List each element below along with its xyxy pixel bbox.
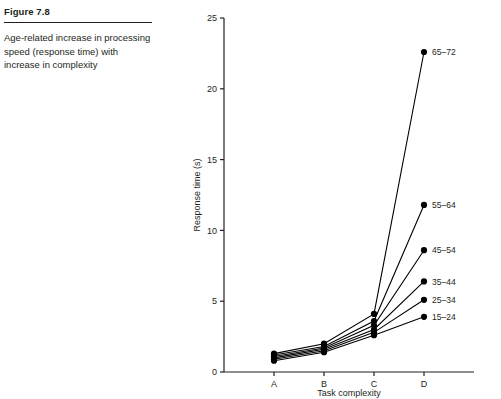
data-point-marker bbox=[271, 358, 277, 364]
series-labels-group: 65–7255–6445–5435–4425–3415–24 bbox=[432, 47, 456, 322]
series-label: 35–44 bbox=[432, 277, 456, 287]
data-point-marker bbox=[421, 297, 427, 303]
series-label: 15–24 bbox=[432, 312, 456, 322]
figure-number: Figure 7.8 bbox=[4, 6, 156, 18]
y-tick-label: 10 bbox=[207, 226, 217, 236]
series-label: 55–64 bbox=[432, 200, 456, 210]
x-tick-label: A bbox=[271, 379, 277, 389]
data-point-marker bbox=[321, 349, 327, 355]
data-point-marker bbox=[421, 278, 427, 284]
data-point-marker bbox=[421, 314, 427, 320]
y-axis-ticks: 0510152025 bbox=[207, 13, 224, 377]
series-line bbox=[274, 281, 424, 357]
y-tick-label: 25 bbox=[207, 13, 217, 23]
series-label: 45–54 bbox=[432, 245, 456, 255]
chart-series-group bbox=[271, 49, 427, 364]
chart-container: 0510152025 ABCD Response time (s) Task c… bbox=[186, 0, 501, 399]
y-axis-title: Response time (s) bbox=[192, 158, 202, 231]
y-tick-label: 15 bbox=[207, 155, 217, 165]
x-axis-title: Task complexity bbox=[317, 388, 381, 398]
figure-page: Figure 7.8 Age-related increase in proce… bbox=[0, 0, 501, 399]
figure-caption-text: Age-related increase in processing speed… bbox=[4, 31, 156, 72]
x-tick-label: D bbox=[421, 379, 428, 389]
series-label: 65–72 bbox=[432, 47, 456, 57]
data-point-marker bbox=[371, 332, 377, 338]
line-chart: 0510152025 ABCD Response time (s) Task c… bbox=[186, 0, 501, 399]
series-line bbox=[274, 205, 424, 355]
y-tick-label: 20 bbox=[207, 84, 217, 94]
data-point-marker bbox=[421, 202, 427, 208]
data-point-marker bbox=[421, 247, 427, 253]
series-line bbox=[274, 52, 424, 354]
series-label: 25–34 bbox=[432, 295, 456, 305]
data-point-marker bbox=[421, 49, 427, 55]
figure-caption-block: Figure 7.8 Age-related increase in proce… bbox=[4, 6, 156, 72]
x-axis-ticks: ABCD bbox=[271, 372, 428, 389]
y-tick-label: 0 bbox=[212, 367, 217, 377]
series-line bbox=[274, 300, 424, 359]
y-tick-label: 5 bbox=[212, 296, 217, 306]
caption-divider bbox=[4, 22, 152, 23]
